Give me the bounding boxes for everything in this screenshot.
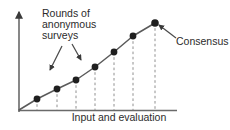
data-point [111,49,118,56]
data-point [92,64,99,71]
data-point [130,33,137,40]
consensus-annotation: Consensus [176,36,229,47]
data-point [73,77,80,84]
delphi-method-diagram: Rounds of anonymous surveys Consensus In… [0,0,230,130]
rounds-arrow-right [72,44,81,60]
data-point [54,86,61,93]
data-point-consensus [151,19,159,27]
rounds-annotation: Rounds of anonymous surveys [42,8,96,41]
x-axis-label: Input and evaluation [0,112,230,123]
rounds-annotation-line-3: surveys [42,30,96,41]
rounds-arrow-left [50,46,62,70]
data-point [34,96,41,103]
consensus-arrow [159,25,176,38]
